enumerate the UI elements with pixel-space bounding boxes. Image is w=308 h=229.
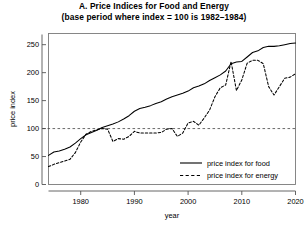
y-tick-label: 200 [27, 68, 39, 77]
x-tick-label: 1990 [126, 197, 142, 206]
y-tick-label: 150 [27, 96, 39, 105]
y-tick-label: 250 [27, 40, 39, 49]
chart-figure: A. Price Indices for Food and Energy (ba… [0, 0, 308, 229]
series-line-food [49, 43, 296, 155]
y-axis-title: price index [8, 91, 17, 127]
x-tick-label: 2010 [234, 197, 250, 206]
series-line-energy [49, 60, 296, 166]
x-tick-label: 2020 [287, 197, 303, 206]
x-tick-label: 1980 [72, 197, 88, 206]
chart-canvas: 05010015020025019801990200020102020yearp… [0, 0, 308, 229]
legend-label-food: price index for food [207, 159, 270, 168]
x-tick-label: 2000 [180, 197, 196, 206]
y-tick-label: 100 [27, 124, 39, 133]
legend-label-energy: price index for energy [207, 171, 278, 180]
x-axis-title: year [165, 211, 180, 220]
y-tick-label: 50 [31, 152, 39, 161]
y-tick-label: 0 [35, 180, 39, 189]
